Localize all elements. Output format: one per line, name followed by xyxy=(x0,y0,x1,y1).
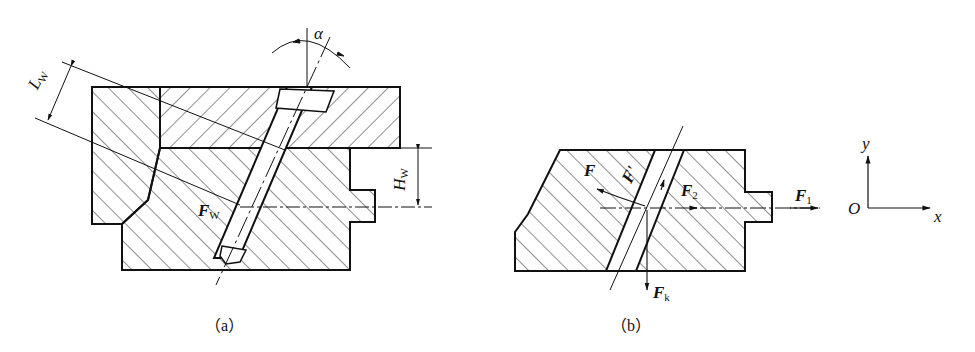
f1-force-label: F1 xyxy=(795,187,812,206)
f-force-label: F xyxy=(584,162,595,179)
f2-force-label: F2 xyxy=(681,182,698,201)
caption-a: （a） xyxy=(205,312,244,336)
angle-alpha-label: α xyxy=(314,25,323,42)
fk-force-label: Fk xyxy=(653,284,670,303)
axis-origin-label: O xyxy=(848,200,860,217)
axis-y-label: y xyxy=(862,135,870,152)
axis-x-label: x xyxy=(934,208,942,225)
mechanism-diagram xyxy=(0,0,975,352)
coordinate-axes xyxy=(868,156,930,208)
fw-force-label: FW xyxy=(198,202,220,221)
hw-dimension-label: HW xyxy=(391,168,410,191)
caption-b: （b） xyxy=(611,312,651,336)
panel-b-drawing xyxy=(515,126,820,290)
panel-a-drawing xyxy=(35,28,432,285)
